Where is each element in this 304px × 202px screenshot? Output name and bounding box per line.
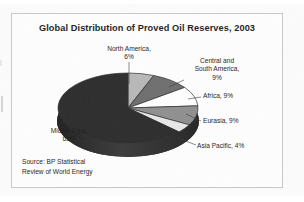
slice-label-asia-pacific: Asia Pacific, 4% [197,142,277,150]
slice-label-central-south-america: Central and South America, 9% [186,57,248,82]
slice-label-north-america: North America, 6% [96,45,162,62]
scanned-page: Global Distribution of Proved Oil Reserv… [0,0,304,202]
chart-title: Global Distribution of Proved Oil Reserv… [11,23,283,33]
pie-chart [57,72,199,164]
slice-label-africa: Africa, 9% [203,92,273,100]
source-note: Source: BP Statistical Review of World E… [22,157,152,176]
slice-label-middle-east: Middle East, 63% [36,127,102,144]
slice-label-eurasia: Eurasia, 9% [203,117,273,125]
